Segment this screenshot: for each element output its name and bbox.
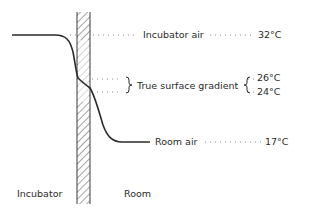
incubator-air-label: Incubator air — [143, 30, 204, 40]
room-side-label: Room — [124, 189, 151, 199]
incubator-air-temp: 32°C — [258, 30, 281, 40]
gradient-upper-temp: 26°C — [257, 73, 280, 83]
left-brace — [244, 77, 250, 93]
gradient-lower-temp: 24°C — [257, 87, 280, 97]
incubator-side-label: Incubator — [17, 189, 62, 199]
room-air-temp: 17°C — [265, 137, 288, 147]
wall — [77, 12, 90, 204]
right-brace — [126, 77, 132, 93]
room-air-label: Room air — [155, 137, 197, 147]
true-surface-gradient-label: True surface gradient — [137, 81, 238, 91]
